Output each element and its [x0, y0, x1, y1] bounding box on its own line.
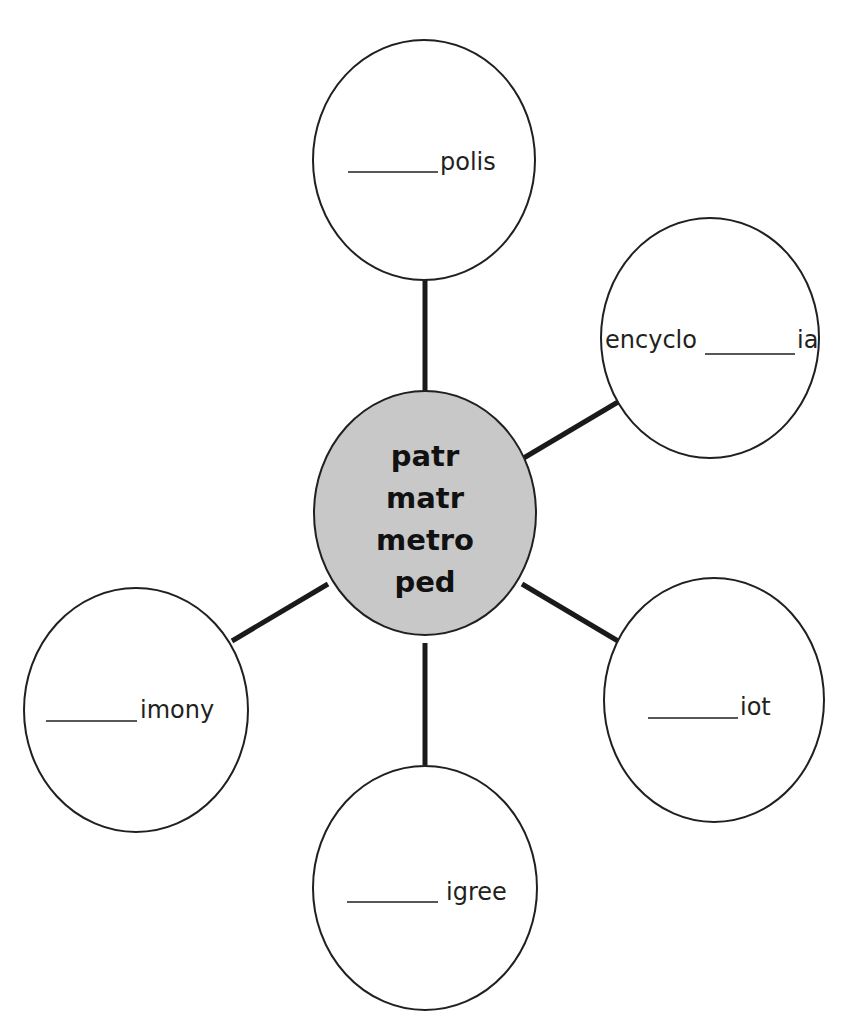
node-left: imony — [24, 588, 248, 832]
center-root-patr: patr — [391, 439, 460, 473]
center-root-metro: metro — [376, 523, 474, 557]
node-bottom-suffix: igree — [446, 878, 507, 906]
center-root-ped: ped — [394, 565, 455, 599]
node-lower-right-suffix: iot — [740, 693, 771, 721]
node-bottom: igree — [313, 766, 537, 1010]
node-upper-right: encyclo ia — [601, 218, 819, 458]
node-top: polis — [313, 40, 535, 280]
node-lower-right-circle — [604, 578, 824, 822]
node-upper-right-prefix: encyclo — [605, 326, 697, 354]
node-center: patr matr metro ped — [314, 391, 536, 635]
connector-left — [232, 584, 328, 641]
node-upper-right-suffix: ia — [797, 326, 818, 354]
word-web-diagram: polis encyclo ia patr matr metro ped iot… — [0, 0, 852, 1034]
node-top-suffix: polis — [440, 148, 496, 176]
node-left-circle — [24, 588, 248, 832]
node-left-suffix: imony — [140, 696, 214, 724]
node-top-circle — [313, 40, 535, 280]
node-lower-right: iot — [604, 578, 824, 822]
center-root-matr: matr — [386, 481, 465, 515]
connector-lower-right — [522, 584, 618, 641]
connector-upper-right — [522, 402, 618, 459]
